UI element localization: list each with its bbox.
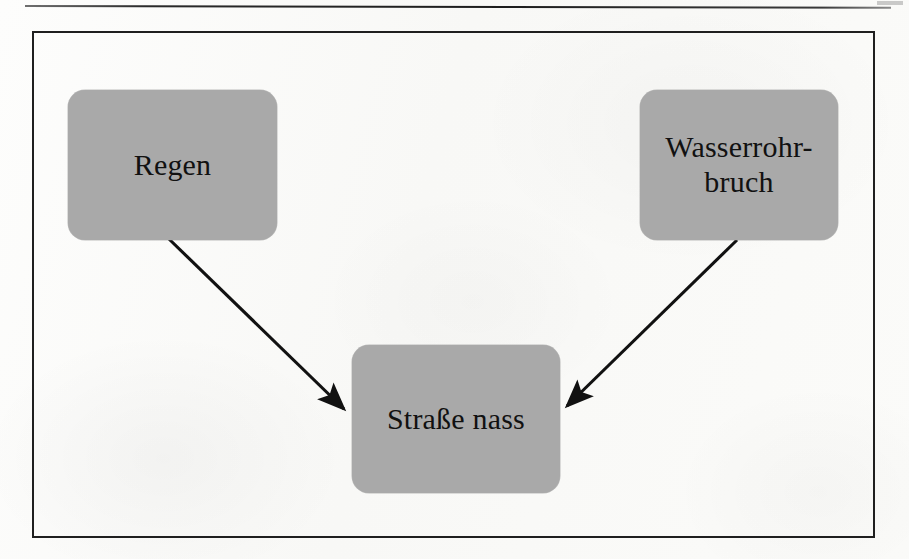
edge-rain-to-wet [169, 239, 344, 409]
node-wasserrohrbruch[interactable]: Wasserrohr- bruch [640, 90, 838, 240]
node-strasse-nass-label: Straße nass [381, 402, 531, 437]
node-strasse-nass[interactable]: Straße nass [352, 345, 560, 493]
node-wasserrohrbruch-label: Wasserrohr- bruch [659, 130, 818, 200]
node-regen-label: Regen [128, 148, 218, 183]
edge-pipe-to-wet [567, 240, 737, 406]
node-regen[interactable]: Regen [68, 90, 277, 240]
